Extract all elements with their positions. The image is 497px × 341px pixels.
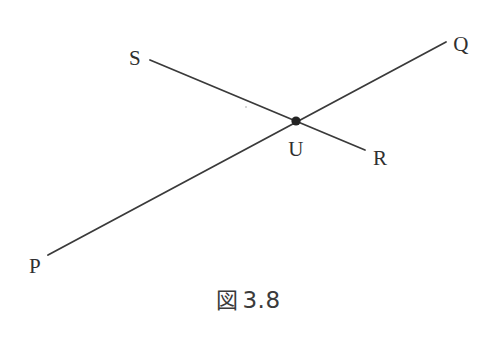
point-label-u: U — [288, 139, 303, 160]
point-label-r: R — [373, 148, 387, 169]
caption-number: 3.8 — [242, 287, 280, 313]
point-label-q: Q — [453, 34, 468, 55]
figure-caption: 図3.8 — [0, 289, 497, 312]
intersection-point-u — [291, 116, 300, 125]
point-label-s: S — [129, 48, 141, 69]
line-sr — [150, 60, 365, 150]
caption-kanji-zu: 図 — [216, 288, 238, 313]
point-label-p: P — [29, 256, 41, 277]
scan-artifact-speck — [245, 106, 247, 108]
figure-container: S Q U R P 図3.8 — [0, 0, 497, 341]
